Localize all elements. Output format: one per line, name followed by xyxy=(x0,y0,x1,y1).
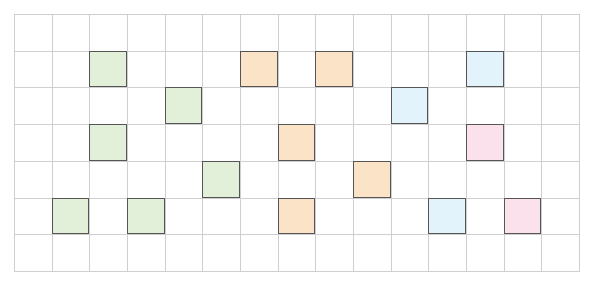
green-square xyxy=(89,124,127,161)
grid-cell xyxy=(127,161,165,198)
grid-cell xyxy=(89,161,127,198)
grid-cell xyxy=(202,14,240,51)
grid-cell xyxy=(89,234,127,271)
orange-square xyxy=(315,51,353,88)
grid-cell xyxy=(278,161,316,198)
grid-cell xyxy=(541,51,579,88)
grid-cell xyxy=(240,198,278,235)
green-square xyxy=(202,161,240,198)
pink-square xyxy=(466,124,504,161)
grid-cell xyxy=(541,161,579,198)
grid-cell xyxy=(165,234,203,271)
grid-cell xyxy=(466,234,504,271)
grid-cell xyxy=(89,87,127,124)
grid-cell xyxy=(391,234,429,271)
grid-cell xyxy=(466,198,504,235)
grid-cell xyxy=(165,14,203,51)
grid-cell xyxy=(52,124,90,161)
grid-cell xyxy=(315,124,353,161)
grid-cell xyxy=(127,51,165,88)
grid-cell xyxy=(315,161,353,198)
green-square xyxy=(89,51,127,88)
grid-cell xyxy=(391,14,429,51)
grid-cell xyxy=(278,87,316,124)
grid-cell xyxy=(541,198,579,235)
grid-cell xyxy=(14,124,52,161)
grid-cell xyxy=(428,87,466,124)
grid-cell xyxy=(428,124,466,161)
grid-cell xyxy=(52,161,90,198)
grid-cell xyxy=(391,161,429,198)
grid-cell xyxy=(127,14,165,51)
grid-cell xyxy=(353,198,391,235)
grid-cell xyxy=(315,234,353,271)
grid-cell xyxy=(240,14,278,51)
green-square xyxy=(165,87,203,124)
grid-cell xyxy=(240,87,278,124)
grid-cell xyxy=(504,51,542,88)
blue-square xyxy=(466,51,504,88)
grid-cell xyxy=(202,124,240,161)
blue-square xyxy=(428,198,466,235)
orange-square xyxy=(353,161,391,198)
grid-cell xyxy=(89,14,127,51)
grid-cell xyxy=(165,124,203,161)
grid-cell xyxy=(14,198,52,235)
grid-cell xyxy=(504,124,542,161)
grid-cell xyxy=(202,87,240,124)
grid-cell xyxy=(504,87,542,124)
grid-cell xyxy=(278,51,316,88)
grid-cell xyxy=(466,14,504,51)
grid-cell xyxy=(202,234,240,271)
grid-cell xyxy=(428,234,466,271)
orange-square xyxy=(278,124,316,161)
grid-cell xyxy=(52,51,90,88)
grid-cell xyxy=(52,234,90,271)
square-grid xyxy=(14,14,580,272)
grid-cell xyxy=(278,234,316,271)
grid-cell xyxy=(504,14,542,51)
grid-cell xyxy=(14,14,52,51)
orange-square xyxy=(240,51,278,88)
grid-cell xyxy=(353,234,391,271)
grid-cell xyxy=(165,161,203,198)
grid-cell xyxy=(353,14,391,51)
grid-cell xyxy=(14,161,52,198)
grid-cell xyxy=(541,124,579,161)
grid-cell xyxy=(240,161,278,198)
grid-cell xyxy=(240,124,278,161)
grid-cell xyxy=(504,161,542,198)
grid-cell xyxy=(127,124,165,161)
grid-cell xyxy=(127,87,165,124)
grid-cell xyxy=(428,51,466,88)
grid-cell xyxy=(14,51,52,88)
grid-cell xyxy=(391,198,429,235)
grid-cell xyxy=(14,234,52,271)
green-square xyxy=(127,198,165,235)
grid-cell xyxy=(541,87,579,124)
grid-cell xyxy=(353,124,391,161)
grid-cell xyxy=(353,51,391,88)
grid-cell xyxy=(428,161,466,198)
grid-cell xyxy=(504,234,542,271)
grid-cell xyxy=(466,87,504,124)
grid-cell xyxy=(315,14,353,51)
orange-square xyxy=(278,198,316,235)
grid-cell xyxy=(52,87,90,124)
blue-square xyxy=(391,87,429,124)
green-square xyxy=(52,198,90,235)
grid-cell xyxy=(391,51,429,88)
grid-cell xyxy=(240,234,278,271)
grid-cell xyxy=(315,87,353,124)
grid-cell xyxy=(278,14,316,51)
grid-cell xyxy=(466,161,504,198)
grid-cell xyxy=(428,14,466,51)
grid-cell xyxy=(202,51,240,88)
grid-cell xyxy=(541,234,579,271)
grid-cell xyxy=(52,14,90,51)
grid-cell xyxy=(541,14,579,51)
grid-cell xyxy=(165,198,203,235)
grid-cell xyxy=(353,87,391,124)
grid-cell xyxy=(127,234,165,271)
grid-cell xyxy=(14,87,52,124)
